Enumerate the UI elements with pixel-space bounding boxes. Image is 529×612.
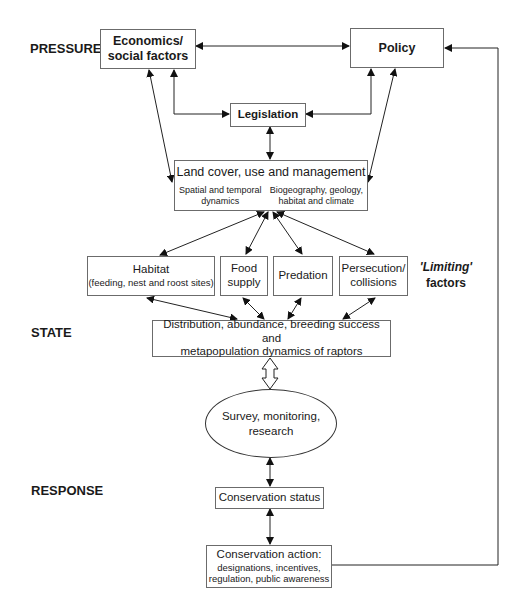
node-conservation-action-line2: designations, incentives, [217, 562, 321, 573]
arrow-action-policy-feedback [332, 48, 498, 565]
arrow-policy-legislation [306, 69, 371, 114]
arrow-landcover-persecution [277, 212, 374, 254]
limiting-factors-label: 'Limiting' factors [414, 260, 478, 291]
node-survey: Survey, monitoring, research [205, 389, 337, 458]
node-policy: Policy [350, 28, 444, 68]
node-conservation-status-label: Conservation status [219, 491, 321, 505]
limiting-factors-line2: factors [414, 276, 478, 292]
node-land-cover-left-line2: dynamics [201, 196, 239, 207]
arrow-economics-landcover [149, 70, 172, 182]
node-land-cover-right-line2: habitat and climate [279, 196, 355, 207]
node-land-cover: Land cover, use and management Spatial a… [174, 160, 368, 211]
node-economics: Economics/ social factors [100, 29, 196, 69]
node-survey-line2: research [249, 424, 294, 439]
node-predation: Predation [273, 256, 333, 296]
hollow-double-arrow [262, 358, 278, 389]
node-habitat: Habitat (feeding, nest and roost sites) [87, 256, 215, 296]
node-conservation-status: Conservation status [215, 487, 324, 509]
node-habitat-line1: Habitat [133, 263, 169, 277]
arrow-persecution-state [343, 298, 375, 319]
level-label-state: STATE [31, 325, 72, 340]
node-persecution-line1: Persecution/ [342, 262, 406, 276]
node-economics-line2: social factors [108, 49, 189, 64]
node-land-cover-subrow: Spatial and temporal dynamics Biogeograp… [175, 185, 367, 207]
arrow-predation-state [288, 298, 301, 319]
node-persecution: Persecution/ collisions [339, 256, 408, 296]
node-food-supply-line2: supply [227, 276, 260, 290]
arrow-food-state [243, 298, 264, 319]
arrow-landcover-predation [273, 212, 302, 254]
node-conservation-action: Conservation action: designations, incen… [206, 545, 332, 588]
node-state-line1: Distribution, abundance, breeding succes… [153, 318, 390, 346]
limiting-factors-line1: 'Limiting' [414, 260, 478, 276]
arrow-policy-landcover [368, 69, 395, 182]
node-land-cover-right: Biogeography, geology, habitat and clima… [270, 185, 363, 207]
node-land-cover-left-line1: Spatial and temporal [179, 185, 262, 196]
arrow-economics-legislation [174, 70, 229, 114]
node-legislation: Legislation [230, 103, 306, 127]
level-label-pressures: PRESSURES [30, 41, 110, 56]
node-land-cover-right-line1: Biogeography, geology, [270, 185, 363, 196]
node-land-cover-left: Spatial and temporal dynamics [179, 185, 262, 207]
node-legislation-label: Legislation [238, 108, 299, 122]
level-label-response: RESPONSE [31, 483, 103, 498]
node-habitat-line2: (feeding, nest and roost sites) [88, 277, 213, 288]
node-land-cover-title: Land cover, use and management [176, 165, 365, 180]
arrow-habitat-state [147, 298, 237, 319]
node-economics-line1: Economics/ [113, 34, 183, 49]
node-food-supply: Food supply [220, 256, 268, 296]
node-conservation-action-title: Conservation action: [217, 548, 322, 562]
node-survey-line1: Survey, monitoring, [222, 409, 320, 424]
node-state-line2: metapopulation dynamics of raptors [180, 345, 362, 359]
node-conservation-action-line3: regulation, public awareness [209, 573, 329, 584]
node-predation-label: Predation [278, 269, 327, 283]
node-policy-label: Policy [379, 41, 416, 56]
node-state: Distribution, abundance, breeding succes… [152, 320, 391, 357]
node-persecution-line2: collisions [350, 276, 397, 290]
node-food-supply-line1: Food [231, 262, 257, 276]
connector-layer [0, 0, 529, 612]
